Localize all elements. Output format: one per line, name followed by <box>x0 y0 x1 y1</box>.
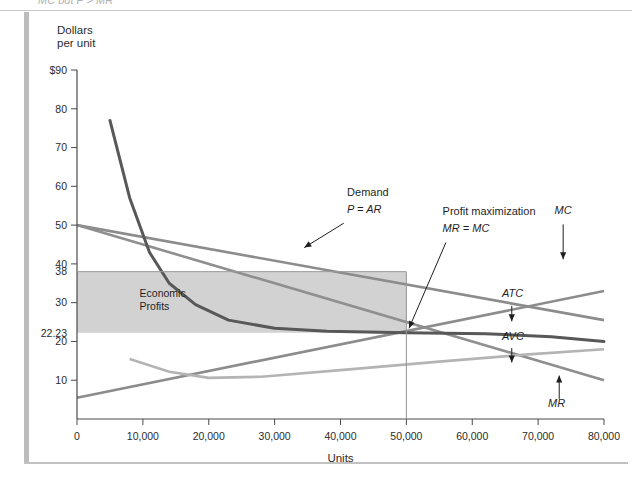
demand-label: Demand <box>347 186 389 198</box>
profit-max-label-line2: MR = MC <box>443 222 490 234</box>
chart-svg: $908070605040383022.232010 010,00020,000… <box>29 12 629 462</box>
mc-arrowhead <box>560 252 566 259</box>
y-axis-tick-labels: $908070605040383022.232010 <box>41 64 67 386</box>
y-tick-label: 38 <box>55 265 67 277</box>
clipped-header-text: MC but P > MR <box>38 0 113 6</box>
x-axis-title: Units <box>327 452 353 462</box>
x-tick-label: 40,000 <box>324 430 356 442</box>
y-axis-title-line2: per unit <box>57 37 96 49</box>
y-axis-title-line1: Dollars <box>57 24 93 36</box>
y-tick-label: 60 <box>55 180 67 192</box>
atc-arrowhead <box>509 314 515 321</box>
x-tick-label: 30,000 <box>259 430 291 442</box>
profit-max-label-line1: Profit maximization <box>443 205 536 217</box>
x-tick-label: 70,000 <box>522 430 554 442</box>
economic-profits-label-line1: Economic <box>140 287 186 299</box>
y-axis-ticks <box>71 70 77 380</box>
x-axis-ticks <box>77 419 604 425</box>
avc-arrowhead <box>509 355 515 362</box>
y-tick-label: $90 <box>49 64 67 76</box>
y-tick-label: 50 <box>55 219 67 231</box>
x-tick-label: 50,000 <box>390 430 422 442</box>
y-tick-label: 10 <box>55 374 67 386</box>
x-tick-label: 20,000 <box>193 430 225 442</box>
x-tick-label: 60,000 <box>456 430 488 442</box>
bottom-divider <box>24 462 628 464</box>
x-tick-label: 0 <box>74 430 80 442</box>
x-tick-label: 10,000 <box>127 430 159 442</box>
chart-figure: $908070605040383022.232010 010,00020,000… <box>29 12 629 462</box>
mr-label: MR <box>548 397 565 409</box>
mc-label: MC <box>555 204 572 216</box>
y-tick-label: 70 <box>55 141 67 153</box>
economic-profits-label-line2: Profits <box>140 300 170 312</box>
mr-arrowhead <box>556 376 562 383</box>
x-axis-tick-labels: 010,00020,00030,00040,00050,00060,00070,… <box>74 430 620 442</box>
y-tick-label: 30 <box>55 296 67 308</box>
atc-label: ATC <box>501 287 523 299</box>
top-divider <box>0 10 632 11</box>
demand-arrowhead <box>304 241 312 247</box>
figure-page: MC but P > MR $908070605040383022.232010… <box>0 0 632 478</box>
y-tick-label: 80 <box>55 103 67 115</box>
demand-label-sub: P = AR <box>347 203 381 215</box>
x-tick-label: 80,000 <box>588 430 620 442</box>
y-tick-label: 20 <box>55 335 67 347</box>
avc-label: AVC <box>501 330 524 342</box>
